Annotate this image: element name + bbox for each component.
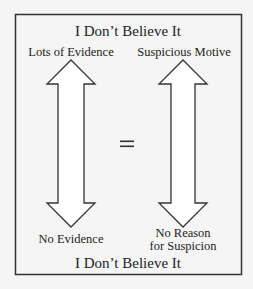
right-top-label: Suspicious Motive (137, 45, 231, 59)
right-bottom-label-line2: for Suspicion (149, 239, 217, 253)
right-bottom-label-line1: No Reason (155, 226, 211, 240)
left-double-arrow-icon (47, 60, 95, 227)
left-bottom-label: No Evidence (39, 232, 104, 246)
equals-icon (120, 141, 134, 148)
right-double-arrow-icon (159, 60, 207, 227)
top-title: I Don’t Believe It (75, 23, 182, 39)
diagram-canvas: I Don’t Believe It Lots of Evidence Susp… (0, 0, 253, 289)
bottom-title: I Don’t Believe It (75, 255, 182, 271)
left-top-label: Lots of Evidence (28, 45, 114, 59)
